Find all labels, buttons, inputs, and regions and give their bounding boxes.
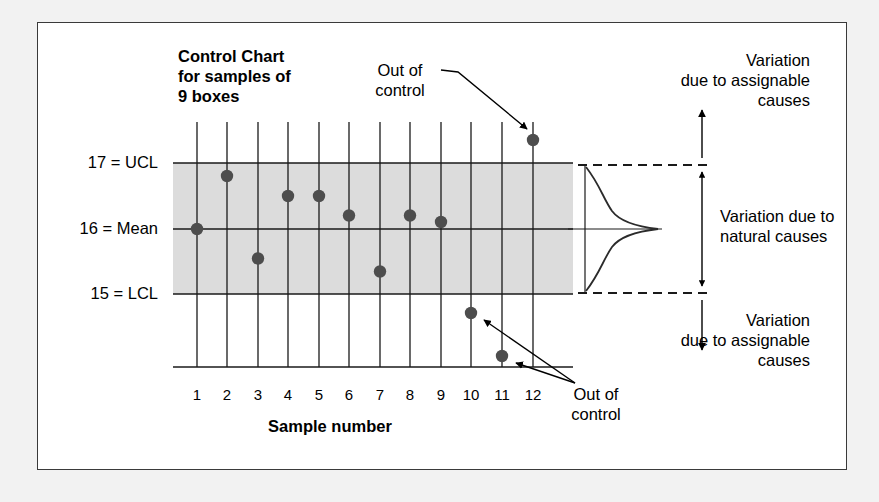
variation-bottom-line-1: Variation bbox=[746, 311, 810, 329]
data-point-7 bbox=[374, 265, 386, 277]
x-tick-labels: 1 2 3 4 5 6 7 8 9 10 11 12 bbox=[193, 386, 542, 403]
x-tick-2: 2 bbox=[223, 386, 231, 403]
variation-top-line-1: Variation bbox=[746, 51, 810, 69]
data-point-12 bbox=[527, 134, 539, 146]
x-tick-6: 6 bbox=[345, 386, 353, 403]
x-axis-title: Sample number bbox=[268, 417, 392, 435]
ucl-label: 17 = UCL bbox=[88, 153, 158, 171]
data-point-10 bbox=[465, 307, 477, 319]
x-tick-1: 1 bbox=[193, 386, 201, 403]
data-point-8 bbox=[404, 209, 416, 221]
x-tick-5: 5 bbox=[315, 386, 323, 403]
x-tick-10: 10 bbox=[463, 386, 480, 403]
x-tick-4: 4 bbox=[284, 386, 292, 403]
data-point-9 bbox=[435, 216, 447, 228]
data-point-4 bbox=[282, 190, 294, 202]
out-of-control-top-line-2: control bbox=[375, 81, 425, 99]
chart-title-line-1: Control Chart bbox=[178, 47, 285, 65]
data-point-5 bbox=[313, 190, 325, 202]
control-chart-figure: 17 = UCL 16 = Mean 15 = LCL Control Char… bbox=[0, 0, 879, 502]
lcl-label: 15 = LCL bbox=[91, 284, 158, 302]
mean-label: 16 = Mean bbox=[80, 219, 158, 237]
variation-natural-line-1: Variation due to bbox=[720, 207, 834, 225]
out-of-control-bottom-arrow-to-11 bbox=[516, 363, 575, 383]
out-of-control-top-line-1: Out of bbox=[378, 61, 423, 79]
data-point-1 bbox=[191, 223, 203, 235]
data-point-2 bbox=[221, 170, 233, 182]
out-of-control-bottom-line-1: Out of bbox=[574, 385, 619, 403]
x-tick-11: 11 bbox=[494, 386, 510, 403]
out-of-control-bottom-arrow-to-10 bbox=[484, 320, 575, 383]
x-tick-9: 9 bbox=[437, 386, 445, 403]
data-point-11 bbox=[496, 350, 508, 362]
x-tick-7: 7 bbox=[376, 386, 384, 403]
x-tick-3: 3 bbox=[254, 386, 262, 403]
x-tick-8: 8 bbox=[406, 386, 414, 403]
data-point-3 bbox=[252, 252, 264, 264]
variation-top-line-3: causes bbox=[758, 91, 810, 109]
normal-distribution-curve bbox=[568, 165, 662, 293]
chart-title-line-2: for samples of bbox=[178, 67, 291, 85]
variation-natural-line-2: natural causes bbox=[720, 227, 827, 245]
out-of-control-top-arrow bbox=[441, 70, 527, 129]
variation-bottom-line-3: causes bbox=[758, 351, 810, 369]
variation-bottom-line-2: due to assignable bbox=[681, 331, 810, 349]
out-of-control-bottom-line-2: control bbox=[571, 405, 621, 423]
variation-top-line-2: due to assignable bbox=[681, 71, 810, 89]
x-tick-12: 12 bbox=[525, 386, 542, 403]
data-point-6 bbox=[343, 209, 355, 221]
chart-title-line-3: 9 boxes bbox=[178, 87, 239, 105]
